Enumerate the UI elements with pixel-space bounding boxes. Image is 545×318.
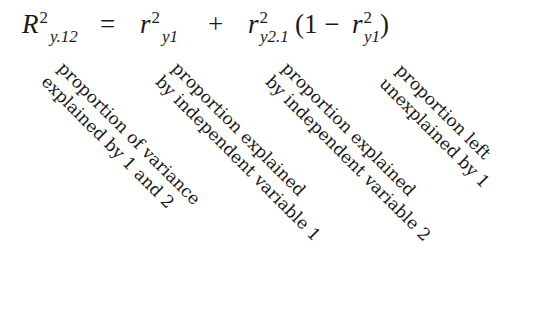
term1-symbol: r [140, 9, 151, 39]
close-paren: ) [380, 9, 389, 39]
term-r-squared-y1-repeat: r2y1) [352, 8, 389, 44]
term2-subscript: y2.1 [260, 27, 289, 46]
lhs-subscript: y.12 [50, 27, 78, 46]
term2-symbol: r [248, 9, 259, 39]
term-r-squared-y1: r2y1 [140, 8, 178, 44]
regression-r-squared-equation: R2y.12 = r2y1 + r2y2.1 (1 − r2y1) [0, 0, 545, 55]
open-paren-one-minus: (1 − [295, 8, 339, 40]
lhs-r-squared-y12: R2y.12 [22, 8, 78, 44]
lhs-superscript: 2 [40, 8, 49, 27]
term1-superscript: 2 [152, 8, 161, 27]
term3-symbol: r [352, 9, 363, 39]
lhs-symbol: R [22, 9, 39, 39]
term3-subscript: y1 [364, 27, 380, 46]
plus-sign: + [208, 8, 223, 40]
term1-subscript: y1 [162, 27, 178, 46]
term-r-squared-y2-1: r2y2.1 [248, 8, 289, 44]
term3-superscript: 2 [364, 8, 373, 27]
term2-superscript: 2 [260, 8, 269, 27]
equals-sign: = [100, 8, 115, 40]
